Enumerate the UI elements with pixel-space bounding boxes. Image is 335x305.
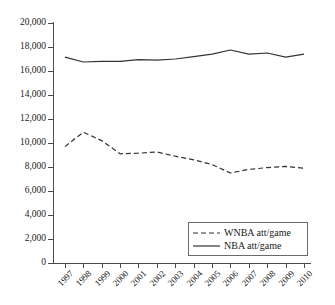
plot-area <box>0 0 335 305</box>
y-axis-tick <box>48 239 53 240</box>
solid-line-icon <box>193 241 220 251</box>
chart-container: 02,0004,0006,0008,00010,00012,00014,0001… <box>0 0 335 305</box>
chart-legend: WNBA att/game NBA att/game <box>188 222 308 256</box>
y-axis-tick <box>48 263 53 264</box>
y-axis-tick-label: 20,000 <box>0 18 46 28</box>
y-axis-tick-label: 8,000 <box>0 162 46 172</box>
series-line-nba <box>65 50 304 62</box>
x-axis-tick <box>175 263 176 268</box>
y-axis-tick <box>48 95 53 96</box>
y-axis-line <box>53 22 54 264</box>
y-axis-tick <box>48 191 53 192</box>
y-axis-tick <box>48 47 53 48</box>
x-axis-tick <box>65 263 66 268</box>
x-axis-tick <box>138 263 139 268</box>
y-axis-tick-label: 10,000 <box>0 138 46 148</box>
x-axis-line <box>53 263 311 264</box>
y-axis-tick-label: 0 <box>0 258 46 268</box>
legend-label-nba: NBA att/game <box>224 241 282 251</box>
legend-label-wnba: WNBA att/game <box>224 228 291 238</box>
y-axis-tick <box>48 215 53 216</box>
y-axis-tick-label: 12,000 <box>0 114 46 124</box>
y-axis-tick-label: 18,000 <box>0 42 46 52</box>
y-axis-tick <box>48 119 53 120</box>
x-axis-tick <box>83 263 84 268</box>
legend-item-nba: NBA att/game <box>193 239 303 252</box>
y-axis-tick-label: 14,000 <box>0 90 46 100</box>
y-axis-tick <box>48 71 53 72</box>
y-axis-tick-label: 4,000 <box>0 210 46 220</box>
y-axis-tick-label: 6,000 <box>0 186 46 196</box>
x-axis-tick <box>120 263 121 268</box>
y-axis-tick <box>48 23 53 24</box>
legend-item-wnba: WNBA att/game <box>193 226 303 239</box>
x-axis-tick <box>249 263 250 268</box>
dashed-line-icon <box>193 228 220 238</box>
y-axis-tick-label: 16,000 <box>0 66 46 76</box>
y-axis-tick-label: 2,000 <box>0 234 46 244</box>
x-axis-tick <box>286 263 287 268</box>
y-axis-tick <box>48 143 53 144</box>
x-axis-tick <box>304 263 305 268</box>
x-axis-tick <box>230 263 231 268</box>
x-axis-tick <box>212 263 213 268</box>
x-axis-tick <box>157 263 158 268</box>
series-line-wnba <box>65 132 304 173</box>
y-axis-tick <box>48 167 53 168</box>
x-axis-tick <box>194 263 195 268</box>
x-axis-tick <box>267 263 268 268</box>
x-axis-tick <box>102 263 103 268</box>
